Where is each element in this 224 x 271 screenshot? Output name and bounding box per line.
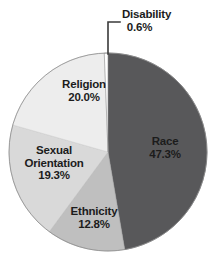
pie-chart: Race 47.3% Religion 20.0% Sexual Orienta… bbox=[0, 0, 224, 271]
disability-leader-line bbox=[108, 22, 120, 54]
pie-slices bbox=[9, 53, 207, 251]
pie-chart-graphic bbox=[0, 0, 224, 271]
pie-slice-race[interactable] bbox=[108, 53, 207, 250]
